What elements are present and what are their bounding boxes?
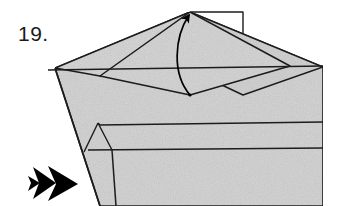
fold-arrow-tail-dot [188,93,191,96]
origami-figure [0,0,337,206]
double-chevron-arrow-icon [28,166,78,201]
origami-diagram-canvas: 19. [0,0,337,206]
step-number-label: 19. [18,23,49,44]
